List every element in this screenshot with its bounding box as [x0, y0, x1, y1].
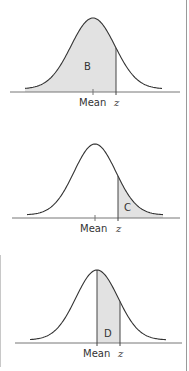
region-label-b: B — [84, 61, 91, 72]
z-label: z — [113, 97, 120, 108]
z-label: z — [115, 223, 122, 234]
mean-label: Mean — [80, 223, 107, 234]
normal-curve-diagrams: B Mean z C Mean z D Mean z — [0, 0, 189, 371]
mean-label: Mean — [79, 97, 106, 108]
panel-c: C Mean z — [12, 144, 180, 234]
region-label-d: D — [104, 328, 112, 339]
panel-d: D Mean z — [15, 270, 182, 359]
normal-curve — [27, 144, 163, 215]
mean-label: Mean — [83, 348, 110, 359]
region-label-c: C — [124, 202, 131, 213]
z-label: z — [117, 348, 124, 359]
panel-b: B Mean z — [10, 18, 180, 108]
shaded-area-b — [25, 18, 116, 92]
